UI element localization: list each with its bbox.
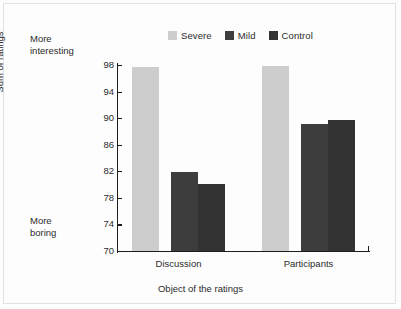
y-axis-tick — [118, 251, 122, 252]
chart-legend: SevereMildControl — [168, 30, 313, 41]
y-axis-tick-label: 98 — [84, 59, 114, 70]
bar-participants-mild — [301, 124, 328, 251]
y-axis-title: Sum of ratings — [0, 12, 5, 112]
axis-annotation-more-boring: More boring — [30, 215, 56, 238]
legend-entry-mild: Mild — [225, 30, 256, 41]
bar-discussion-control — [198, 184, 225, 251]
y-axis-tick-labels: 7074788286909498 — [82, 0, 114, 309]
bar-discussion-severe — [132, 67, 159, 251]
x-axis-group-label-participants: Participants — [256, 258, 361, 269]
bar-participants-control — [328, 120, 355, 251]
plot-area — [118, 65, 370, 251]
legend-label: Control — [282, 30, 313, 41]
legend-entry-control: Control — [269, 30, 313, 41]
x-axis-title: Object of the ratings — [0, 283, 401, 294]
y-axis-tick-label: 78 — [84, 192, 114, 203]
y-axis-tick-label: 70 — [84, 245, 114, 256]
x-axis-line — [117, 251, 370, 252]
bar-participants-severe — [262, 66, 289, 251]
axis-annotation-more-interesting: More interesting — [30, 33, 74, 56]
y-axis-tick-label: 94 — [84, 86, 114, 97]
legend-swatch-icon — [225, 31, 234, 40]
legend-entry-severe: Severe — [168, 30, 212, 41]
y-axis-tick-label: 74 — [84, 218, 114, 229]
chart-page: More interesting More boring SevereMildC… — [0, 0, 401, 309]
y-axis-tick-label: 86 — [84, 139, 114, 150]
legend-label: Mild — [238, 30, 256, 41]
legend-swatch-icon — [168, 31, 177, 40]
x-axis-group-label-discussion: Discussion — [126, 258, 231, 269]
legend-swatch-icon — [269, 31, 278, 40]
y-axis-tick-label: 82 — [84, 165, 114, 176]
legend-label: Severe — [181, 30, 212, 41]
y-axis-tick-label: 90 — [84, 112, 114, 123]
bar-discussion-mild — [171, 172, 198, 251]
